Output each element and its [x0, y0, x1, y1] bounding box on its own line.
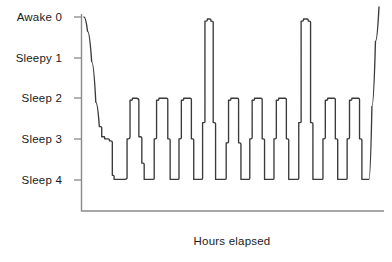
x-axis-title: Hours elapsed [194, 235, 271, 247]
y-axis-ticks [74, 17, 81, 180]
chart-page: Awake 0 Sleepy 1 Sleep 2 Sleep 3 Sleep 4… [0, 0, 392, 262]
y-tick-label-3: Sleep 3 [22, 133, 62, 145]
y-tick-label-0: Awake 0 [17, 11, 62, 23]
axis-spines [82, 14, 385, 211]
hypnogram-figure: Awake 0 Sleepy 1 Sleep 2 Sleep 3 Sleep 4… [0, 0, 392, 262]
y-tick-label-1: Sleepy 1 [16, 52, 62, 64]
sleep-stage-curve [84, 7, 379, 180]
y-tick-label-4: Sleep 4 [22, 174, 63, 186]
y-axis-labels: Awake 0 Sleepy 1 Sleep 2 Sleep 3 Sleep 4 [16, 11, 63, 186]
y-tick-label-2: Sleep 2 [22, 92, 62, 104]
